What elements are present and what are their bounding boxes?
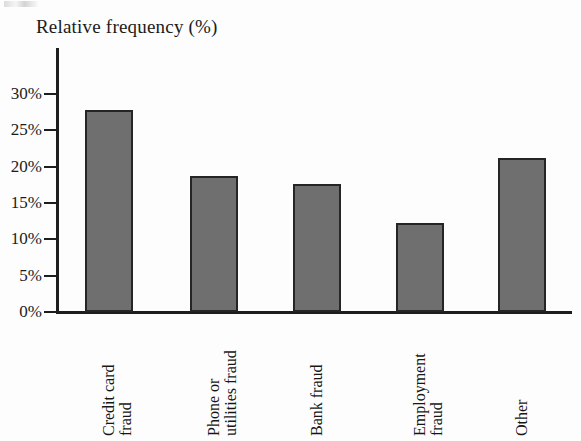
bar-chart: Relative frequency (%) 0%5%10%15%20%25%3… — [0, 0, 581, 441]
y-axis-tick-label: 10% — [0, 229, 42, 249]
plot-area: 0%5%10%15%20%25%30% Credit cardfraudPhon… — [0, 0, 581, 441]
bar — [190, 176, 238, 312]
bar — [498, 158, 546, 312]
bar — [85, 110, 133, 312]
x-axis-category-label: fraud — [116, 402, 135, 436]
x-axis-category-label: Bank fraud — [307, 364, 326, 436]
y-axis-tick — [44, 129, 57, 131]
bar — [396, 223, 444, 312]
y-axis-tick — [44, 93, 57, 95]
y-axis-tick-label: 20% — [0, 157, 42, 177]
y-axis-tick — [44, 202, 57, 204]
y-axis-tick-label: 5% — [0, 266, 42, 286]
y-axis-tick-label: 25% — [0, 120, 42, 140]
x-axis-category-label: Other — [512, 400, 531, 436]
x-axis-category-label: fraud — [427, 402, 446, 436]
bar — [293, 184, 341, 312]
x-axis-category-label: utilities fraud — [221, 350, 240, 436]
y-axis-tick — [44, 275, 57, 277]
y-axis-tick — [44, 166, 57, 168]
y-axis-tick-label: 15% — [0, 193, 42, 213]
y-axis-tick-label: 30% — [0, 84, 42, 104]
y-axis-tick — [44, 238, 57, 240]
y-axis-tick-label: 0% — [0, 302, 42, 322]
y-axis-tick — [44, 311, 57, 313]
